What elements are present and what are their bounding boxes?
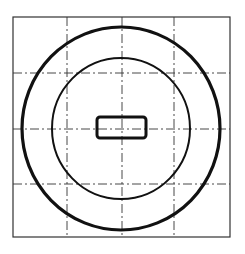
background	[0, 0, 245, 254]
diagram-canvas	[0, 0, 245, 254]
